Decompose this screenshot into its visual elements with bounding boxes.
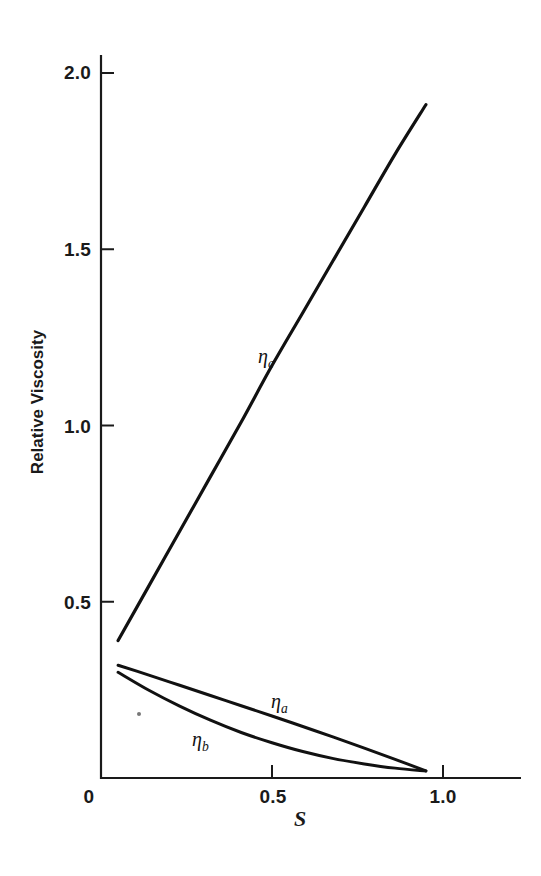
eta-b-subscript: b <box>202 739 209 754</box>
eta-c-subscript: c <box>268 356 274 371</box>
curve-ηa <box>118 665 426 771</box>
x-tick-label-0-5: 0.5 <box>246 786 300 808</box>
y-tick-label-0-5: 0.5 <box>36 592 91 614</box>
y-tick-label-2-0: 2.0 <box>36 62 91 84</box>
curve-ηc <box>118 105 426 641</box>
axis-lines <box>100 55 521 779</box>
x-tick-label-0: 0 <box>76 786 102 808</box>
eta-a-subscript: a <box>281 701 288 716</box>
y-axis-label: Relative Viscosity <box>28 302 48 502</box>
curve-label-eta-c: ηc <box>258 345 274 372</box>
x-axis-label: S <box>250 806 350 832</box>
eta-a-symbol: η <box>271 690 281 712</box>
curve-ηb <box>118 672 426 771</box>
eta-b-symbol: η <box>192 728 202 750</box>
eta-c-symbol: η <box>258 345 268 367</box>
data-curves <box>118 105 426 771</box>
chart-plot <box>0 0 541 876</box>
curve-label-eta-b: ηb <box>192 728 209 755</box>
curve-label-eta-a: ηa <box>271 690 288 717</box>
y-tick-label-1-5: 1.5 <box>36 239 91 261</box>
figure-container: 2.0 1.5 1.0 0.5 0 0.5 1.0 Relative Visco… <box>0 0 541 876</box>
y-axis-ticks <box>101 73 114 602</box>
x-tick-label-1-0: 1.0 <box>416 786 470 808</box>
scan-speck <box>137 712 141 716</box>
